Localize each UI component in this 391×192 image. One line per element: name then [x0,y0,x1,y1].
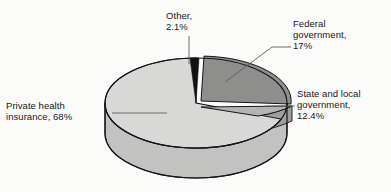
pie-chart: Other, 2.1% Federal government, 17% Stat… [0,0,391,192]
slice-label-private-health-insurance: Private health insurance, 68% [6,100,118,122]
slice-label-federal-government: Federal government, 17% [293,18,389,52]
slice-top-federal-government [201,56,291,104]
slice-label-other: Other, 2.1% [166,10,236,32]
slice-label-state-and-local-government: State and local government, 12.4% [297,88,391,122]
